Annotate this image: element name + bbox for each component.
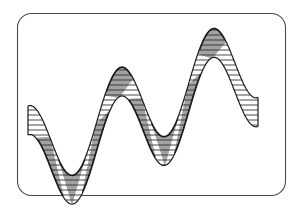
- sine-ribbon-diagram: Hatched sinusoidal ribbon with upward li…: [0, 0, 301, 213]
- figure-frame: Hatched sinusoidal ribbon with upward li…: [0, 0, 301, 213]
- figure-canvas: Hatched sinusoidal ribbon with upward li…: [0, 0, 301, 213]
